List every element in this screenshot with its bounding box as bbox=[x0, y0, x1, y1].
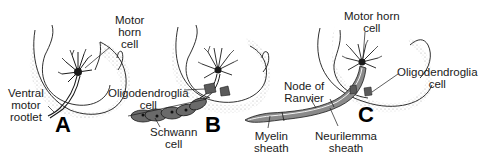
label-line: Motor horn bbox=[344, 10, 400, 22]
label-b-oligodendroglia-cell: Oligodendroglia cell bbox=[108, 87, 189, 111]
panel-letter-b: B bbox=[205, 114, 221, 136]
label-line: sheath bbox=[315, 142, 377, 154]
panel-letter-c: C bbox=[358, 104, 374, 126]
label-line: Oligodendroglia bbox=[397, 66, 478, 78]
label-line: Ventral bbox=[8, 87, 44, 99]
label-line: Neurilemma bbox=[315, 130, 377, 142]
label-c-motor-horn-cell: Motor horn cell bbox=[344, 10, 400, 34]
label-c-oligodendroglia-cell: Oligodendroglia cell bbox=[397, 66, 478, 90]
label-ventral-motor-rootlet: Ventral motor rootlet bbox=[8, 87, 44, 123]
leader-line bbox=[372, 74, 398, 92]
label-line: Oligodendroglia bbox=[108, 87, 189, 99]
label-node-of-ranvier: Node of Ranvier bbox=[284, 80, 324, 104]
label-line: Motor bbox=[115, 14, 144, 26]
label-line: Schwann bbox=[150, 126, 197, 138]
label-line: Myelin bbox=[254, 130, 289, 142]
label-line: sheath bbox=[254, 142, 289, 154]
panel-letter-a: A bbox=[55, 114, 71, 136]
label-line: cell bbox=[150, 138, 197, 150]
leader-line bbox=[330, 108, 338, 126]
label-neurilemma-sheath: Neurilemma sheath bbox=[315, 130, 377, 154]
panel-b-motor-neuron bbox=[198, 46, 238, 100]
label-line: cell bbox=[108, 99, 189, 111]
label-line: motor bbox=[8, 99, 44, 111]
label-line: cell bbox=[397, 78, 478, 90]
label-a-motor-horn-cell: Motor horn cell bbox=[115, 14, 144, 50]
label-line: Ranvier bbox=[284, 92, 324, 104]
label-line: cell bbox=[344, 22, 400, 34]
label-line: Node of bbox=[284, 80, 324, 92]
label-line: horn bbox=[115, 26, 144, 38]
panel-c-motor-neuron bbox=[342, 32, 382, 70]
label-myelin-sheath: Myelin sheath bbox=[254, 130, 289, 154]
label-line: rootlet bbox=[8, 111, 44, 123]
label-schwann-cell: Schwann cell bbox=[150, 126, 197, 150]
label-line: cell bbox=[115, 38, 144, 50]
